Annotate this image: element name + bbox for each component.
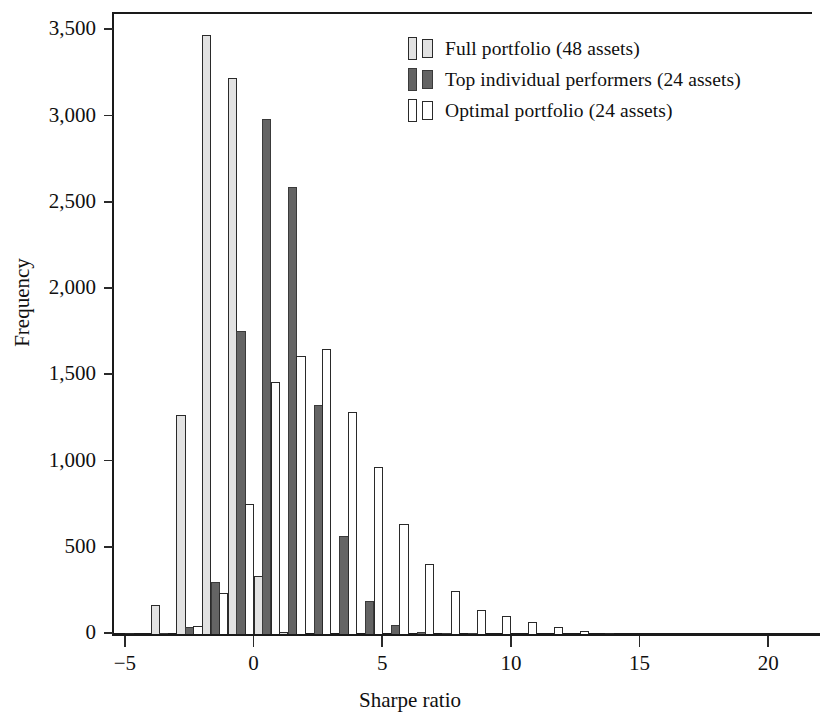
sharpe-ratio-histogram-figure: 05001,0001,5002,0002,5003,0003,500 −5051…: [0, 0, 820, 721]
histogram-bar: [374, 467, 383, 634]
x-axis-tick-label: 10: [481, 651, 541, 675]
legend-swatch-bar-icon: [422, 101, 433, 120]
legend-swatch-bar-icon: [408, 68, 417, 91]
legend-item: Top individual performers (24 assets): [408, 64, 741, 95]
histogram-bar: [245, 504, 254, 634]
x-axis-tick: [124, 636, 126, 647]
x-axis-tick: [253, 636, 255, 647]
x-axis-tick-label: 5: [352, 651, 412, 675]
histogram-bar: [580, 631, 589, 634]
histogram-bar: [322, 349, 331, 634]
histogram-bar: [159, 633, 168, 634]
x-axis-tick-label: 20: [738, 651, 798, 675]
legend-swatch-top-individual: [408, 68, 438, 91]
y-axis-tick: [104, 201, 113, 203]
y-axis-tick: [104, 287, 113, 289]
y-axis-title: Frequency: [10, 203, 35, 403]
histogram-bar: [219, 593, 228, 634]
histogram-bar: [193, 626, 202, 634]
x-axis-tick-label: 15: [610, 651, 670, 675]
legend-label-optimal-portfolio: Optimal portfolio (24 assets): [445, 95, 673, 126]
x-axis-tick-label: −5: [95, 651, 155, 675]
histogram-bar: [554, 627, 563, 634]
histogram-bar: [176, 415, 185, 634]
histogram-bar: [202, 35, 211, 634]
y-axis-tick-label: 1,000: [8, 450, 96, 471]
legend-swatch-optimal-portfolio: [408, 99, 438, 122]
y-axis-tick-label: 3,000: [8, 105, 96, 126]
y-axis-tick: [104, 373, 113, 375]
histogram-bar: [296, 356, 305, 634]
chart-legend: Full portfolio (48 assets) Top individua…: [408, 33, 741, 126]
x-axis-tick: [381, 636, 383, 647]
legend-swatch-bar-icon: [422, 70, 433, 89]
histogram-bar: [151, 605, 160, 634]
legend-swatch-full-portfolio: [408, 37, 438, 60]
legend-item: Full portfolio (48 assets): [408, 33, 741, 64]
histogram-bar: [399, 524, 408, 634]
histogram-bar: [605, 633, 614, 634]
legend-swatch-bar-icon: [408, 37, 417, 60]
y-axis-tick-label: 3,500: [8, 18, 96, 39]
legend-swatch-bar-icon: [408, 99, 417, 122]
y-axis-tick-label: 500: [8, 536, 96, 557]
x-axis-tick: [767, 636, 769, 647]
x-axis-tick: [510, 636, 512, 647]
histogram-bar: [125, 633, 134, 634]
histogram-bar: [477, 610, 486, 634]
histogram-bar: [528, 622, 537, 634]
legend-item: Optimal portfolio (24 assets): [408, 95, 741, 126]
legend-swatch-bar-icon: [422, 39, 433, 58]
legend-label-full-portfolio: Full portfolio (48 assets): [445, 33, 640, 64]
y-axis-tick: [104, 546, 113, 548]
y-axis-tick: [104, 460, 113, 462]
y-axis-tick-label: 0: [8, 622, 96, 643]
histogram-bar: [348, 412, 357, 634]
y-axis-tick: [104, 28, 113, 30]
histogram-bar: [451, 591, 460, 634]
y-axis-tick: [104, 632, 113, 634]
x-axis-title: Sharpe ratio: [0, 688, 820, 713]
legend-label-top-individual: Top individual performers (24 assets): [445, 64, 741, 95]
histogram-bar: [502, 616, 511, 634]
x-axis-tick-label: 0: [224, 651, 284, 675]
histogram-bar: [271, 382, 280, 634]
y-axis-tick: [104, 115, 113, 117]
histogram-bar: [425, 564, 434, 634]
x-axis-tick: [639, 636, 641, 647]
